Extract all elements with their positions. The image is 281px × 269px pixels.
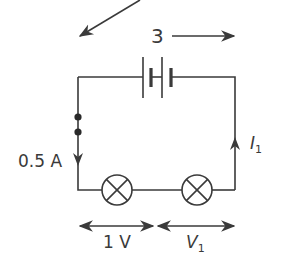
circuit-diagram: 3 0.5 A I1 1 V V1	[0, 0, 281, 269]
lamp1-voltage-label: 1 V	[103, 234, 131, 251]
lamp-1-icon	[102, 175, 132, 205]
battery-voltage-label: 3	[151, 26, 164, 46]
wire-top-right	[171, 77, 235, 190]
current-label-left: 0.5 A	[18, 153, 62, 170]
wire-left	[78, 77, 102, 190]
current-label-right: I1	[250, 135, 262, 155]
lamp2-voltage-label: V1	[186, 234, 205, 254]
battery-span-arrow-left-icon	[80, 0, 140, 36]
circuit-drawing	[0, 0, 281, 269]
lamp-2-icon	[182, 175, 212, 205]
